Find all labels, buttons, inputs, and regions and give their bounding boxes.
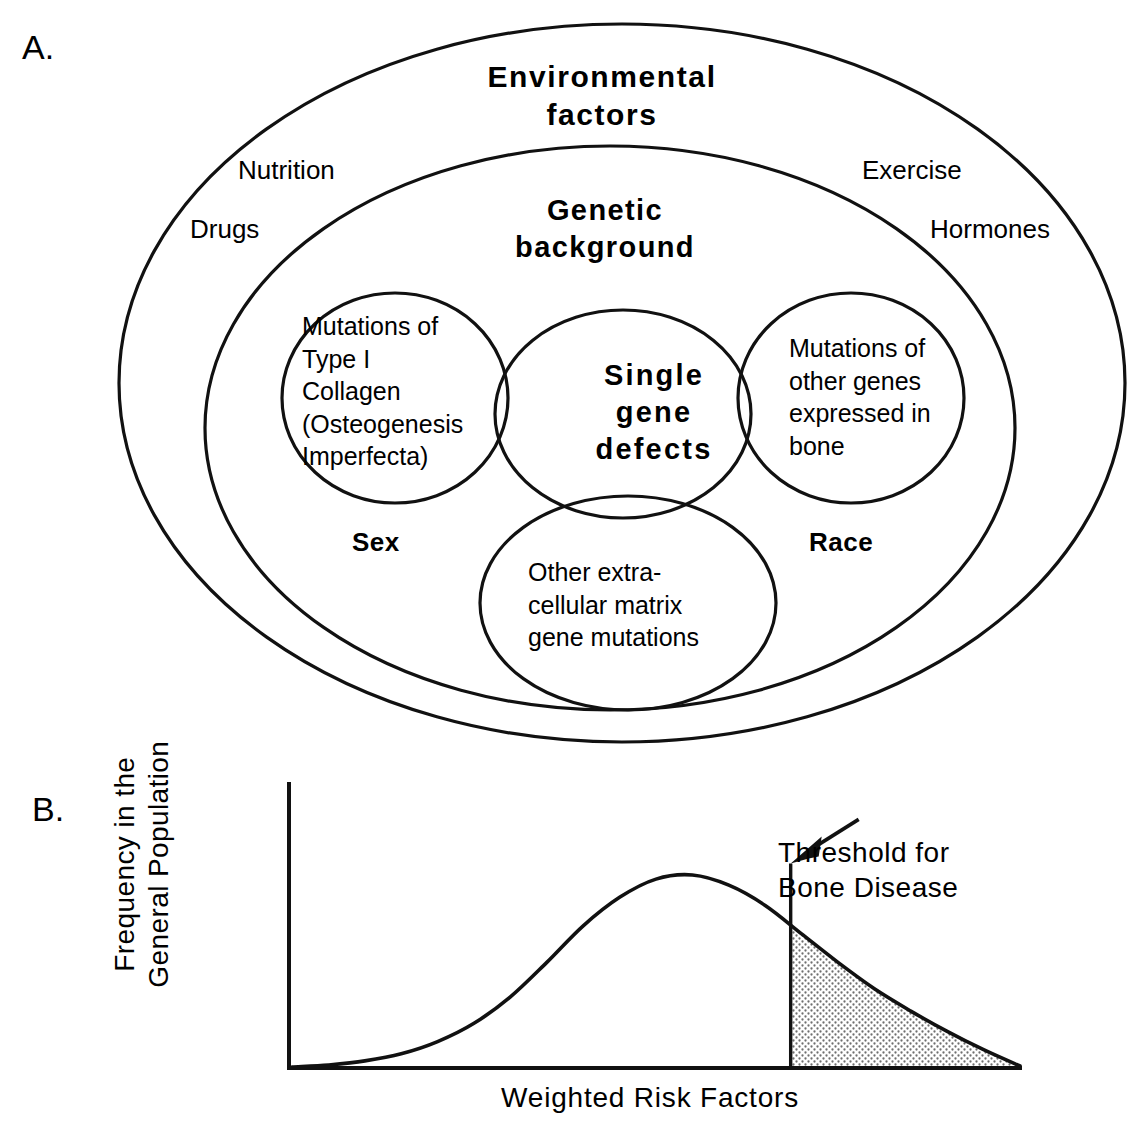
threshold-annotation-text: Threshold for Bone Disease — [778, 836, 1098, 905]
circle-type-i-collagen-mutations — [282, 293, 508, 503]
circle-other-gene-mutations — [738, 293, 964, 503]
circle-single-gene-defects — [495, 310, 751, 518]
figure-root: A. Environmental factors Genetic backgro… — [0, 0, 1142, 1142]
circle-extracellular-matrix-mutations — [480, 496, 776, 710]
middle-ellipse-genetic-background — [205, 146, 1015, 710]
y-axis-title: Frequency in the General Population — [108, 714, 176, 1014]
shaded-threshold-region — [791, 925, 1020, 1068]
panel-a-venn-diagram — [0, 0, 1142, 770]
x-axis-title: Weighted Risk Factors — [380, 1082, 920, 1114]
outer-ellipse-environmental-factors — [119, 24, 1125, 742]
